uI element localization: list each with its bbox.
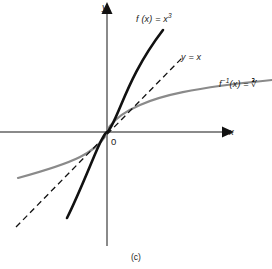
figure-caption: (c) bbox=[0, 252, 272, 262]
label-cubic-function-exponent: 3 bbox=[168, 12, 172, 19]
label-inverse-function-exponent: −1 bbox=[222, 77, 230, 84]
y-axis-label: y bbox=[102, 1, 107, 12]
label-cubic-function: f (x) = x3 bbox=[136, 14, 172, 24]
figure-container: f (x) = x3 y = x f−1(x) = ∛ x y 0 (c) bbox=[0, 0, 272, 269]
label-inverse-function: f−1(x) = ∛ bbox=[219, 79, 258, 89]
curve-cubic-function bbox=[67, 30, 163, 218]
x-axis-label: x bbox=[229, 126, 234, 137]
label-inverse-function-suffix: (x) = bbox=[230, 79, 252, 89]
cube-root-icon: ∛ bbox=[251, 79, 257, 89]
label-cubic-function-text: f (x) = x bbox=[136, 14, 168, 24]
origin-label: 0 bbox=[111, 136, 116, 147]
label-identity-line: y = x bbox=[181, 52, 201, 62]
